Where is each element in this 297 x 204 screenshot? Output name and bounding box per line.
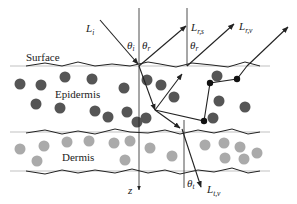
volume-exit-ray-2	[247, 27, 288, 66]
dermis-particle	[167, 151, 178, 162]
theta-t-label: θt	[187, 177, 195, 191]
epidermis-label: Epidermis	[55, 88, 100, 100]
epidermis-particle	[36, 80, 47, 91]
dermis-particle	[200, 140, 211, 151]
dermis-particle	[252, 148, 263, 159]
epidermis-particle	[240, 102, 251, 113]
specular-ray-label: Lr,s	[190, 21, 204, 36]
epidermis-particle	[90, 106, 101, 117]
dermis-particle	[84, 136, 95, 147]
dermis-bottom-boundary	[10, 168, 270, 174]
epidermis-particle	[156, 80, 167, 91]
epidermis-particle	[87, 74, 98, 85]
dermis-particle	[220, 153, 231, 164]
skin-light-scattering-diagram: Surface Epidermis Dermis z Li Lr,s Lr,v …	[0, 0, 297, 204]
dermis-particle	[125, 136, 136, 147]
epidermis-particle	[122, 107, 133, 118]
epidermis-particle	[212, 71, 223, 82]
z-axis-label: z	[127, 184, 133, 196]
dermis-particle	[235, 142, 246, 153]
incident-ray-label: Li	[85, 22, 94, 37]
dermis-label: Dermis	[62, 151, 94, 163]
epidermis-particle	[208, 113, 219, 124]
dermis-particle	[62, 137, 73, 148]
dermis-particle	[120, 155, 131, 166]
refracted-ray	[139, 66, 155, 110]
epidermis-particle	[31, 99, 42, 110]
dermis-particle	[32, 156, 43, 167]
dermis-particle	[109, 138, 120, 149]
epidermis-particle	[15, 79, 26, 90]
epidermis-particle	[60, 72, 71, 83]
volume-reflect-ray-label: Lr,v	[238, 20, 253, 35]
surface-label: Surface	[26, 51, 60, 63]
dermis-particles	[15, 136, 263, 167]
theta-r-label-2: θr	[190, 39, 198, 53]
epidermis-particles	[15, 71, 251, 128]
epidermis-particle	[132, 117, 143, 128]
transmit-ray-label: Lt,v	[206, 183, 221, 198]
epidermis-particle	[169, 92, 180, 103]
dermis-particle	[15, 144, 26, 155]
epidermis-particle	[214, 96, 225, 107]
dermis-particle	[145, 143, 156, 154]
scatter-path	[155, 66, 247, 121]
theta-i-label: θi	[127, 39, 135, 53]
epidermis-dermis-boundary	[10, 129, 270, 134]
scatter-up-ray	[155, 74, 182, 110]
theta-r-label-1: θr	[142, 39, 150, 53]
epidermis-particle	[119, 83, 130, 94]
dermis-particle	[239, 154, 250, 165]
dermis-particle	[219, 138, 230, 149]
dermis-particle	[39, 141, 50, 152]
epidermis-particle	[55, 103, 66, 114]
epidermis-particle	[103, 112, 114, 123]
